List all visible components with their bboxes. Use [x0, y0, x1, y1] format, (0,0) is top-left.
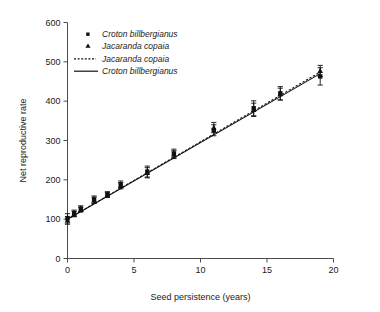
- scatter-plot: 010020030040050060005101520Seed persiste…: [0, 0, 380, 312]
- y-tick-label: 600: [45, 18, 60, 28]
- chart-figure: 010020030040050060005101520Seed persiste…: [0, 0, 380, 312]
- data-point-square: [318, 74, 322, 78]
- x-tick-label: 5: [131, 265, 136, 275]
- x-tick-label: 20: [328, 265, 338, 275]
- y-axis-title: Net reproductive rate: [18, 98, 28, 182]
- x-tick-label: 10: [195, 265, 205, 275]
- x-axis-title: Seed persistence (years): [150, 292, 250, 302]
- y-tick-label: 200: [45, 175, 60, 185]
- x-tick-label: 0: [65, 265, 70, 275]
- y-tick-label: 0: [55, 254, 60, 264]
- legend-marker-triangle: [85, 43, 90, 47]
- legend-label: Croton billbergianus: [102, 29, 178, 39]
- legend-marker-square: [86, 33, 89, 36]
- y-tick-label: 300: [45, 136, 60, 146]
- legend-label: Jacaranda copaia: [101, 54, 169, 64]
- y-tick-label: 400: [45, 96, 60, 106]
- legend-label: Croton billbergianus: [102, 66, 178, 76]
- y-tick-label: 100: [45, 214, 60, 224]
- legend-label: Jacaranda copaia: [101, 41, 169, 51]
- y-tick-label: 500: [45, 57, 60, 67]
- data-point-triangle: [211, 125, 217, 130]
- data-point-triangle: [317, 68, 323, 73]
- x-tick-label: 15: [262, 265, 272, 275]
